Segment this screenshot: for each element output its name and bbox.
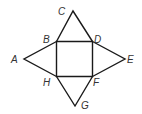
label-d: D — [94, 34, 101, 45]
square-base-bdfh — [57, 42, 93, 77]
triangle-bAh — [24, 42, 57, 77]
label-b: B — [43, 34, 50, 45]
label-h: H — [43, 77, 51, 88]
label-c: C — [58, 6, 66, 17]
label-g: G — [81, 100, 89, 111]
label-e: E — [127, 54, 134, 65]
pyramid-net-diagram: C B D A E H F G — [0, 0, 142, 114]
label-f: F — [93, 77, 100, 88]
triangle-dEf — [93, 42, 126, 77]
label-a: A — [10, 54, 18, 65]
